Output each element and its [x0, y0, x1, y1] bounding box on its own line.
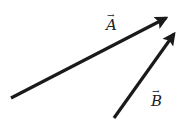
vector-a-arrow — [11, 18, 166, 98]
vector-diagram: → A → B — [0, 0, 177, 132]
vector-b-arrow — [114, 34, 174, 118]
vector-a-label: → A — [106, 18, 117, 33]
vector-b-label: → B — [151, 94, 162, 109]
vector-arrow-accent-icon: → — [152, 87, 160, 96]
vector-arrow-accent-icon: → — [107, 11, 115, 20]
vector-arrows — [0, 0, 177, 132]
